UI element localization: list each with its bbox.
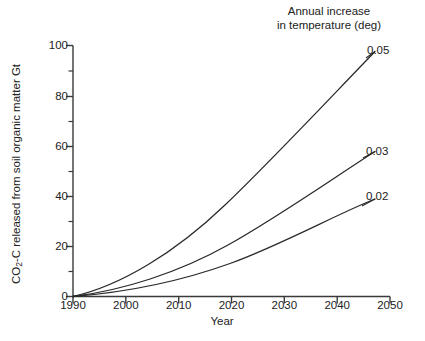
curve-0.03	[73, 152, 375, 297]
x-tick-label-1990: 1990	[50, 299, 96, 311]
y-axis-label-subscript: 2	[14, 262, 24, 267]
x-tick-label-2030: 2030	[261, 299, 307, 311]
y-tick-label-80: 80	[38, 90, 68, 102]
series-label-0-03: 0.03	[366, 145, 388, 157]
leader-lines	[362, 52, 375, 207]
series-label-0-05: 0.05	[367, 44, 389, 56]
x-tick-label-2040: 2040	[314, 299, 360, 311]
y-tick-label-40: 40	[38, 190, 68, 202]
y-tick-label-20: 20	[38, 240, 68, 252]
y-axis-label-prefix: CO	[10, 267, 22, 284]
curve-0.05	[73, 52, 375, 297]
x-axis-label: Year	[147, 315, 297, 327]
series-label-0-02: 0.02	[366, 190, 388, 202]
x-tick-label-2020: 2020	[209, 299, 255, 311]
co2-release-chart-figure: Annual increase in temperature (deg)	[0, 0, 425, 341]
x-tick-label-2010: 2010	[156, 299, 202, 311]
y-tick-label-100: 100	[38, 39, 68, 51]
y-axis-label: CO2-C released from soil organic matter …	[10, 40, 22, 308]
x-tick-label-2000: 2000	[103, 299, 149, 311]
x-tick-label-2050: 2050	[367, 299, 413, 311]
y-tick-label-60: 60	[38, 140, 68, 152]
y-axis-label-suffix: -C released from soil organic matter Gt	[10, 64, 22, 262]
series-curves	[73, 52, 375, 297]
y-axis-tick-labels: 0 20 40 60 80 100	[35, 0, 68, 341]
